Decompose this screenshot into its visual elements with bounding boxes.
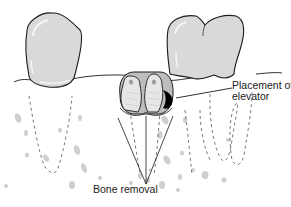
bone-removal-pointer-lines	[118, 116, 173, 184]
right-molar-crown	[167, 15, 244, 79]
bone-removal-label: Bone removal	[93, 184, 158, 195]
diagram-illustration	[0, 0, 291, 207]
dental-extraction-diagram: Placement of elevator Bone removal	[0, 0, 291, 207]
placement-pointer-line	[176, 88, 232, 98]
placement-label-line2: elevator	[232, 91, 291, 102]
placement-of-elevator-label: Placement of elevator	[232, 80, 291, 102]
left-molar-crown	[26, 13, 82, 87]
bone-trabeculae-speckles	[4, 112, 230, 192]
